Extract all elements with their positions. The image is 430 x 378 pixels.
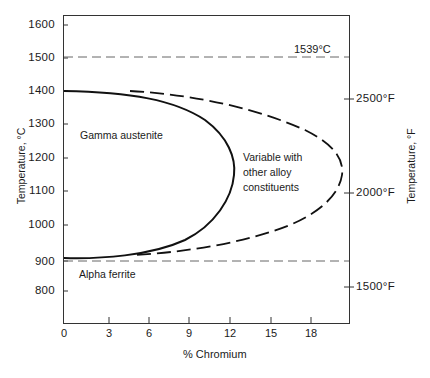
x-tick-label: 9 [177, 327, 201, 339]
gamma-austenite-label: Gamma austenite [80, 126, 163, 144]
alpha-ferrite-label: Alpha ferrite [79, 265, 136, 283]
y-tick-label: 1500 [17, 51, 55, 63]
x-tick-label: 18 [299, 327, 323, 339]
x-tick-label: 6 [137, 327, 161, 339]
fahrenheit-tick-label: 2000°F [356, 186, 395, 198]
y-tick-label: 1600 [17, 18, 55, 30]
y-tick-label: 800 [17, 284, 55, 296]
y-axis-right-title: Temperature, °F [405, 121, 417, 211]
fahrenheit-tick-label: 1500°F [356, 280, 395, 292]
fahrenheit-tick-label: 2500°F [356, 92, 395, 104]
y-axis-title: Temperature, °C [15, 121, 27, 211]
x-tick-label: 3 [97, 327, 121, 339]
melting-point-label: 1539°C [294, 43, 331, 55]
gamma-loop-solid-curve [64, 91, 234, 258]
y-tick-label: 1400 [17, 84, 55, 96]
y-tick-label: 1000 [17, 218, 55, 230]
x-axis-ticks [109, 317, 311, 323]
x-tick-label: 0 [52, 327, 76, 339]
variable-boundary-dashed-curve [130, 91, 342, 255]
x-tick-label: 12 [218, 327, 242, 339]
y-tick-label: 900 [17, 255, 55, 267]
variable-label-line3: constituents [243, 178, 299, 196]
iron-chromium-phase-diagram: 1600 1500 1400 1300 1200 1100 1000 900 8… [0, 0, 430, 378]
x-tick-label: 15 [259, 327, 283, 339]
x-axis-title: % Chromium [183, 348, 247, 360]
